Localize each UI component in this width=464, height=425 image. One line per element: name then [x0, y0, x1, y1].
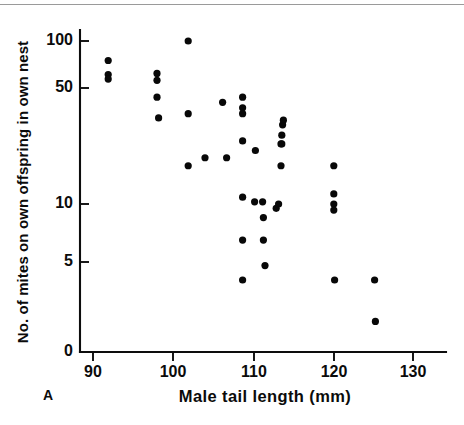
data-point	[330, 206, 337, 213]
data-point	[251, 198, 258, 205]
data-point	[371, 276, 378, 283]
data-point	[105, 57, 112, 64]
y-axis-ticks	[80, 41, 89, 352]
panel-label-a: A	[43, 387, 53, 403]
data-point	[155, 114, 162, 121]
axes-group	[80, 30, 446, 352]
data-point	[278, 140, 285, 147]
data-point	[239, 110, 246, 117]
data-point	[185, 162, 192, 169]
data-point	[252, 147, 259, 154]
y-tick-label-0: 0	[64, 342, 73, 359]
data-point	[105, 76, 112, 83]
y-tick-label-10: 10	[55, 194, 73, 211]
y-tick-label-5: 5	[64, 252, 73, 269]
data-point	[330, 162, 337, 169]
data-point	[330, 190, 337, 197]
data-point	[153, 94, 160, 101]
x-axis-title: Male tail length (mm)	[179, 387, 352, 405]
y-tick-label-50: 50	[55, 78, 73, 95]
data-point	[239, 194, 246, 201]
x-axis-tick-labels: 90 100 110 120 130	[84, 363, 426, 380]
data-point	[280, 117, 287, 124]
scatter-plot-canvas: 100 50 10 5 0 90 100 110 120 130 Male ta…	[0, 0, 464, 425]
y-axis-title: No. of mites on own offspring in own nes…	[14, 41, 31, 343]
data-point	[278, 132, 285, 139]
data-point	[153, 77, 160, 84]
data-point	[185, 37, 192, 44]
data-point	[239, 276, 246, 283]
data-point	[277, 162, 284, 169]
data-point	[275, 200, 282, 207]
y-axis-tick-labels: 100 50 10 5 0	[46, 31, 73, 359]
data-point	[260, 214, 267, 221]
data-point	[372, 318, 379, 325]
data-point	[331, 276, 338, 283]
data-point	[239, 94, 246, 101]
data-points-layer	[105, 37, 379, 325]
x-tick-label-120: 120	[321, 363, 348, 380]
data-point	[260, 236, 267, 243]
figure-panel-a: 100 50 10 5 0 90 100 110 120 130 Male ta…	[0, 0, 464, 425]
data-point	[259, 198, 266, 205]
data-point	[185, 110, 192, 117]
data-point	[239, 137, 246, 144]
data-point	[223, 154, 230, 161]
x-tick-label-110: 110	[241, 363, 267, 380]
data-point	[261, 262, 268, 269]
x-tick-label-130: 130	[400, 363, 427, 380]
y-tick-label-100: 100	[46, 31, 73, 48]
x-axis-ticks	[93, 352, 413, 361]
data-point	[239, 236, 246, 243]
data-point	[219, 99, 226, 106]
data-point	[201, 154, 208, 161]
x-tick-label-100: 100	[160, 363, 187, 380]
x-tick-label-90: 90	[84, 363, 102, 380]
data-point	[153, 70, 160, 77]
